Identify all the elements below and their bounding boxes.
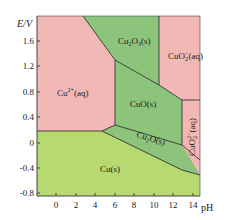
y-axis-label: E/V: [16, 18, 34, 29]
label-cuo2-aq: CuO2−(aq): [168, 50, 203, 62]
svg-text:-0.4: -0.4: [20, 163, 35, 173]
x-axis-label: pH: [201, 202, 213, 213]
svg-text:-0.8: -0.8: [20, 188, 35, 198]
svg-text:8: 8: [132, 200, 137, 210]
svg-text:0: 0: [54, 200, 59, 210]
svg-text:14: 14: [189, 200, 199, 210]
svg-text:0.8: 0.8: [23, 87, 35, 97]
svg-text:2: 2: [74, 200, 79, 210]
svg-text:1.6: 1.6: [23, 36, 35, 46]
svg-text:1.2: 1.2: [23, 61, 34, 71]
svg-text:10: 10: [150, 200, 160, 210]
label-cuo2-2-aq: CuO22−(aq): [186, 118, 198, 156]
svg-text:6: 6: [113, 200, 118, 210]
label-cu-solid: Cu(s): [100, 164, 120, 174]
svg-text:4: 4: [93, 200, 98, 210]
svg-text:0.4: 0.4: [23, 112, 35, 122]
svg-text:12: 12: [169, 200, 178, 210]
svg-text:0: 0: [30, 138, 35, 148]
label-cuo: CuO(s): [130, 99, 157, 109]
y-tick-labels: 1.6 1.2 0.8 0.4 0 -0.4 -0.8: [20, 36, 35, 198]
pourbaix-diagram: 1.6 1.2 0.8 0.4 0 -0.4 -0.8 0 2 4 6 8 10…: [0, 0, 226, 220]
label-cu2o3: Cu2O3(s): [118, 36, 151, 47]
x-tick-labels: 0 2 4 6 8 10 12 14: [54, 200, 198, 210]
